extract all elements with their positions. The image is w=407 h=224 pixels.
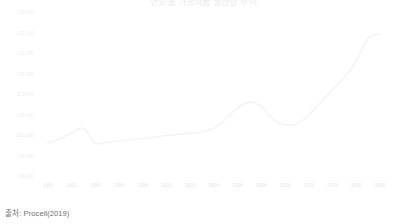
line-chart-plot bbox=[0, 0, 407, 224]
source-note: 출처: Procell(2019) bbox=[5, 207, 69, 218]
series-line-생산량 bbox=[48, 34, 380, 144]
chart-container: 연도별 가공식품 생산량 추이 130,000125,000120,000115… bbox=[0, 0, 407, 224]
